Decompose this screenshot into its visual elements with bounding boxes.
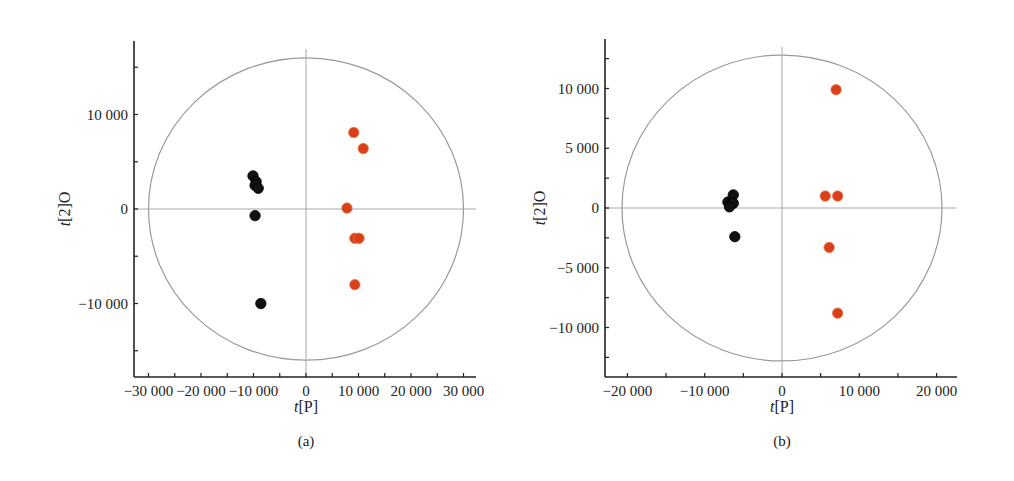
x-tick-label: −10 000: [680, 383, 730, 399]
data-point-red: [832, 308, 842, 318]
data-point-red: [358, 143, 368, 153]
x-axis-title: t[P]: [294, 398, 318, 415]
data-point-red: [820, 191, 830, 201]
x-tick-label: 10 000: [338, 383, 379, 399]
y-tick-label: 10 000: [558, 81, 599, 97]
y-tick-label: 0: [121, 201, 129, 217]
panel-caption: (a): [298, 433, 315, 450]
chart-panel-b: −20 000−10 000010 00020 00010 0005 0000−…: [531, 39, 957, 450]
x-tick-label: −20 000: [176, 383, 226, 399]
data-point-black: [256, 298, 266, 308]
x-tick-label: 20 000: [916, 383, 957, 399]
x-tick-label: −20 000: [603, 383, 653, 399]
y-axis-title: t[2]O: [531, 191, 548, 226]
data-point-red: [350, 279, 360, 289]
x-tick-label: 10 000: [839, 383, 880, 399]
figure: −30 000−20 000−10 000010 00020 00030 000…: [0, 0, 1014, 481]
data-point-red: [832, 191, 842, 201]
chart-panel-a: −30 000−20 000−10 000010 00020 00030 000…: [56, 41, 484, 450]
x-tick-label: 0: [778, 383, 786, 399]
data-point-black: [724, 202, 734, 212]
y-tick-label: 10 000: [87, 107, 128, 123]
y-tick-label: −10 000: [549, 320, 599, 336]
y-tick-label: −10 000: [78, 296, 128, 312]
x-tick-label: 30 000: [443, 383, 484, 399]
y-tick-label: −5 000: [557, 260, 599, 276]
x-tick-label: −30 000: [124, 383, 174, 399]
panel-caption: (b): [773, 433, 791, 450]
data-point-black: [730, 231, 740, 241]
data-point-red: [824, 242, 834, 252]
data-point-red: [831, 84, 841, 94]
y-tick-label: 5 000: [565, 140, 599, 156]
data-point-red: [349, 127, 359, 137]
x-axis-title: t[P]: [770, 398, 794, 415]
data-point-black: [250, 210, 260, 220]
x-tick-label: −10 000: [229, 383, 279, 399]
x-tick-label: 20 000: [390, 383, 431, 399]
y-tick-label: 0: [592, 200, 600, 216]
data-point-black: [253, 183, 263, 193]
data-point-red: [342, 203, 352, 213]
data-point-red: [354, 233, 364, 243]
x-tick-label: 0: [302, 383, 310, 399]
y-axis-title: t[2]O: [56, 192, 73, 227]
